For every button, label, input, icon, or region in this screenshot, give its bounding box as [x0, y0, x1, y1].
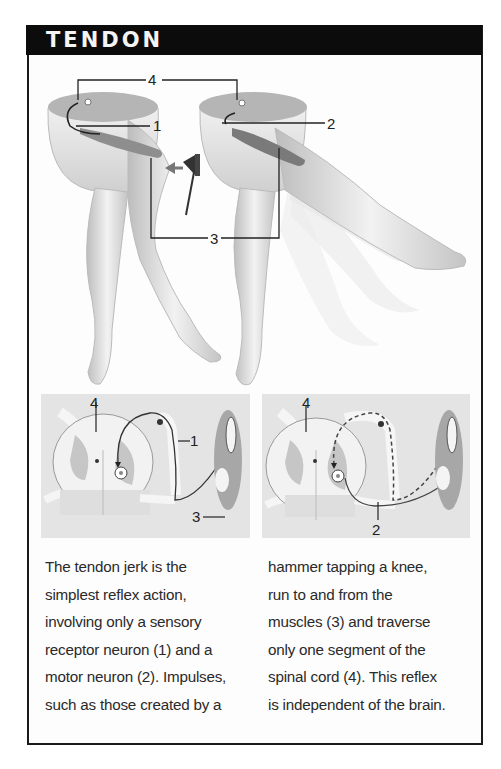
caption-line: is independent of the brain. [268, 691, 483, 719]
caption-line: only one segment of the [268, 636, 483, 664]
spinal-cord-panel-motor [262, 394, 470, 538]
label-2-top: 2 [327, 115, 335, 132]
caption-line: simplest reflex action, [45, 581, 260, 609]
spinal-cord-panel-sensory [41, 394, 250, 538]
caption-line: involving only a sensory [45, 608, 260, 636]
caption-line: run to and from the [268, 581, 483, 609]
label-4-right-panel: 4 [302, 394, 310, 411]
label-4-left-panel: 4 [90, 394, 98, 411]
caption-line: hammer tapping a knee, [268, 553, 483, 581]
label-4-top: 4 [148, 71, 156, 88]
caption-column-left: The tendon jerk is the simplest reflex a… [45, 553, 260, 718]
figure-title: TENDON [46, 28, 163, 52]
caption-line: motor neuron (2). Impulses, [45, 663, 260, 691]
caption-line: such as those created by a [45, 691, 260, 719]
caption-column-right: hammer tapping a knee, run to and from t… [268, 553, 483, 718]
caption-line: spinal cord (4). This reflex [268, 663, 483, 691]
label-1-top: 1 [153, 117, 161, 134]
caption-line: receptor neuron (1) and a [45, 636, 260, 664]
caption-line: The tendon jerk is the [45, 553, 260, 581]
label-2-right-panel: 2 [372, 521, 380, 538]
label-3-top: 3 [210, 230, 218, 247]
figure-header: TENDON [26, 25, 482, 55]
label-3-left-panel: 3 [192, 508, 200, 525]
caption-line: muscles (3) and traverse [268, 608, 483, 636]
label-1-left-panel: 1 [190, 432, 198, 449]
